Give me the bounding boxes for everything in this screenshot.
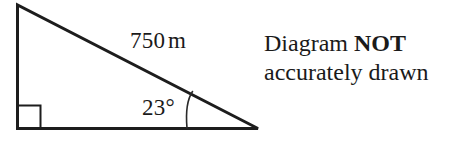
not-to-scale-note: Diagram NOT accurately drawn: [264, 29, 429, 88]
hypotenuse-length-label: 750m: [130, 29, 186, 52]
triangle-outline: [18, 5, 259, 129]
diagram-canvas: 750m 23° Diagram NOT accurately drawn: [0, 0, 450, 142]
note-line-1: Diagram NOT: [264, 29, 429, 58]
angle-measure-label: 23°: [142, 96, 175, 119]
hypotenuse-length-value: 750: [130, 28, 165, 53]
note-emphasis-not: NOT: [354, 30, 406, 56]
note-line-1-prefix: Diagram: [264, 30, 354, 56]
angle-arc-icon: [186, 92, 192, 129]
hypotenuse-length-unit: m: [168, 28, 186, 53]
right-angle-square-icon: [18, 106, 41, 129]
note-line-2: accurately drawn: [264, 58, 429, 87]
